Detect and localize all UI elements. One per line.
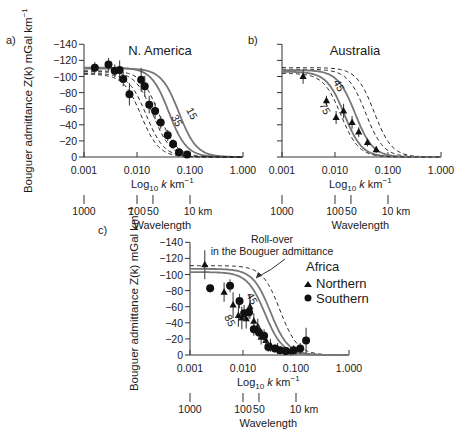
y-tick-label: −80 (165, 285, 183, 297)
x-tick-label: 1.000 (336, 362, 362, 374)
legend-entry-northern: Northern (316, 276, 367, 291)
data-point-circle (183, 151, 191, 159)
data-point-triangle (250, 317, 257, 324)
y-tick-label: −60 (59, 103, 77, 115)
y-tick-label: −100 (159, 269, 183, 281)
wavelength-title: Wavelength (331, 219, 389, 231)
data-point-triangle (348, 118, 355, 125)
x-tick-label: 1.000 (428, 164, 454, 176)
x-axis-title: Log10 k km−1 (131, 176, 194, 193)
y-tick-label: 0 (71, 151, 77, 163)
curve-label: 35 (169, 112, 185, 128)
y-tick-label: −120 (159, 252, 183, 264)
wavelength-title: Wavelength (133, 219, 191, 231)
legend-title: Africa (306, 259, 340, 274)
y-tick-label: −40 (165, 317, 183, 329)
x-tick-label: 0.100 (375, 164, 401, 176)
x-tick-label: 0.001 (177, 362, 203, 374)
wavelength-tick-label: 50 (147, 205, 159, 217)
data-point-circle (141, 82, 149, 90)
x-axis-title: Log10 k km−1 (237, 374, 300, 391)
y-tick-label: −20 (165, 333, 183, 345)
y-tick-label: −100 (53, 71, 77, 83)
data-point-circle (236, 297, 244, 305)
x-tick-label: 0.001 (71, 164, 97, 176)
model-curve (84, 74, 243, 157)
chart-panel-c: c)0−20−40−60−80−100−120−1400.0010.0100.1… (98, 206, 369, 429)
data-point-circle (290, 346, 298, 354)
wavelength-tick-label: 10 km (290, 403, 319, 415)
data-point-circle (119, 75, 127, 83)
wavelength-tick-label: 50 (253, 403, 265, 415)
data-point-triangle (201, 261, 208, 268)
data-point-circle (206, 284, 214, 292)
x-tick-label: 0.100 (177, 164, 203, 176)
data-point-circle (264, 343, 272, 351)
data-point-circle (105, 60, 113, 68)
data-point-circle (91, 64, 99, 72)
data-point-circle (125, 90, 133, 98)
x-tick-label: 0.010 (230, 362, 256, 374)
y-tick-label: −120 (53, 54, 77, 66)
data-point-circle (282, 347, 290, 355)
legend-entry-southern: Southern (316, 291, 369, 306)
panel-tag: a) (6, 34, 16, 46)
model-curve (84, 72, 243, 157)
figure-canvas: a)0−20−40−60−80−100−120−1400.0010.0100.1… (0, 0, 468, 434)
model-curve (282, 73, 441, 157)
wavelength-tick-label: 1000 (270, 205, 294, 217)
wavelength-title: Wavelength (239, 417, 297, 429)
wavelength-tick-label: 10 km (184, 205, 213, 217)
wavelength-tick-label: 100 (326, 205, 344, 217)
x-axis-title: Log10 k km−1 (329, 176, 392, 193)
model-curve (282, 68, 441, 157)
x-tick-label: 0.001 (269, 164, 295, 176)
panel-tag: c) (98, 224, 107, 236)
y-tick-label: 0 (177, 349, 183, 361)
y-tick-label: −80 (59, 87, 77, 99)
data-point-circle (175, 148, 183, 156)
y-tick-label: −60 (165, 301, 183, 313)
data-point-circle (226, 282, 234, 290)
panel-title: N. America (128, 43, 192, 58)
panel-tag: b) (248, 34, 258, 46)
model-curve (282, 69, 441, 157)
curve-label: 75 (317, 100, 333, 116)
wavelength-tick-label: 10 km (382, 205, 411, 217)
data-point-circle (302, 337, 310, 345)
curve-label: 85 (222, 312, 238, 328)
data-point-circle (245, 308, 253, 316)
y-axis-title: Bouguer admittance Z(k) mGal km−1 (126, 206, 140, 391)
annotation-text: Roll-over (251, 233, 294, 245)
y-tick-label: −40 (59, 119, 77, 131)
model-curve (84, 73, 243, 157)
data-point-circle (296, 345, 304, 353)
y-tick-label: −20 (59, 135, 77, 147)
x-tick-label: 0.100 (283, 362, 309, 374)
data-point-circle (116, 66, 124, 74)
y-tick-label: −140 (53, 38, 77, 50)
legend-triangle-icon (304, 281, 312, 287)
wavelength-tick-label: 1000 (72, 205, 96, 217)
x-tick-label: 0.010 (322, 164, 348, 176)
data-point-triangle (221, 288, 228, 295)
wavelength-tick-label: 100 (234, 403, 252, 415)
data-point-circle (157, 118, 165, 126)
data-point-triangle (229, 301, 236, 308)
model-curve (84, 69, 243, 157)
wavelength-tick-label: 1000 (178, 403, 202, 415)
legend-circle-icon (305, 295, 312, 302)
data-point-triangle (333, 114, 340, 121)
data-point-circle (169, 140, 177, 148)
chart-panel-a: a)0−20−40−60−80−100−120−1400.0010.0100.1… (6, 8, 256, 231)
panel-title: Australia (330, 43, 381, 58)
x-tick-label: 1.000 (230, 164, 256, 176)
data-point-circle (145, 101, 153, 109)
curve-label: 45 (244, 290, 260, 306)
data-point-circle (260, 332, 268, 340)
model-curve (282, 70, 441, 157)
data-point-circle (164, 131, 172, 139)
y-tick-label: −140 (159, 236, 183, 248)
wavelength-tick-label: 50 (345, 205, 357, 217)
data-point-triangle (364, 139, 371, 146)
